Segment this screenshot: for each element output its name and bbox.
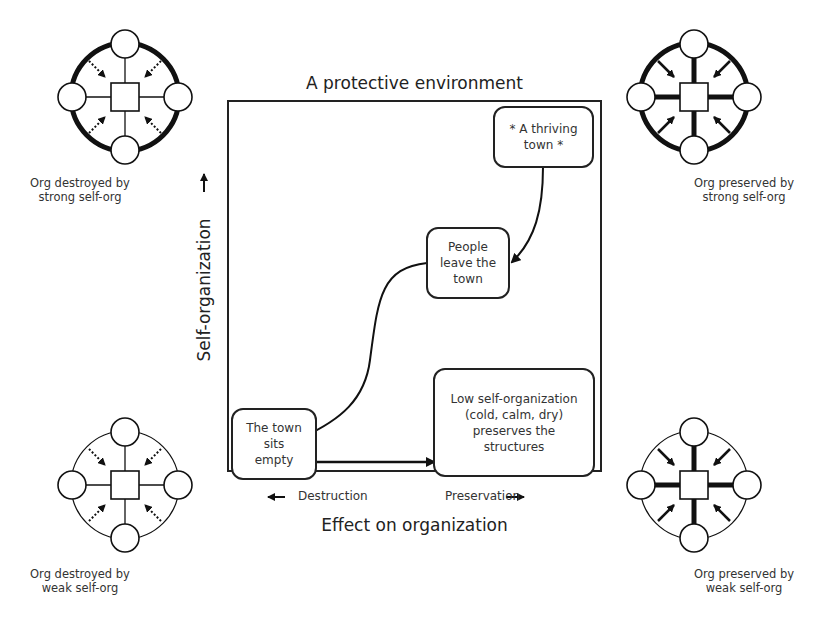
x-axis-preservation-label: Preservation xyxy=(445,489,520,503)
caption-preserved-weak: Org preserved by weak self-org xyxy=(664,567,819,595)
caption-line: Org preserved by xyxy=(664,176,819,190)
x-axis-destruction-label: Destruction xyxy=(298,489,368,503)
icon-preserved-strong xyxy=(627,30,761,164)
caption-line: strong self-org xyxy=(664,190,819,204)
box-low-self-org: Low self-organization (cold, calm, dry) … xyxy=(433,368,595,477)
arrow-thriving-to-leave xyxy=(512,167,543,262)
y-axis-title: Self-organization xyxy=(194,218,214,361)
box-town-empty: The town sits empty xyxy=(231,408,317,480)
box-thriving-town: * A thriving town * xyxy=(493,106,594,168)
arrow-leave-to-empty xyxy=(303,263,427,437)
caption-preserved-strong: Org preserved by strong self-org xyxy=(664,176,819,204)
box-people-leave: People leave the town xyxy=(426,227,510,299)
caption-line: Org destroyed by xyxy=(0,567,160,581)
caption-line: Org destroyed by xyxy=(0,176,160,190)
diagram-title: A protective environment xyxy=(228,73,601,93)
caption-line: Org preserved by xyxy=(664,567,819,581)
caption-destroyed-strong: Org destroyed by strong self-org xyxy=(0,176,160,204)
x-axis-title: Effect on organization xyxy=(228,515,601,535)
caption-line: strong self-org xyxy=(0,190,160,204)
caption-line: weak self-org xyxy=(664,581,819,595)
caption-line: weak self-org xyxy=(0,581,160,595)
icon-destroyed-weak xyxy=(58,418,192,552)
icon-destroyed-strong xyxy=(58,30,192,164)
caption-destroyed-weak: Org destroyed by weak self-org xyxy=(0,567,160,595)
icon-preserved-weak xyxy=(627,418,761,552)
